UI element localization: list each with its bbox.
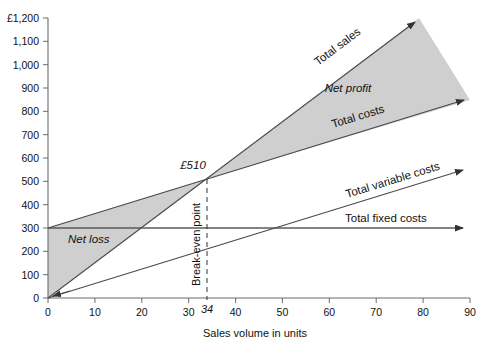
y-axis: £1,200 1,100 1,000 900 800 700 600 500 4…	[7, 12, 48, 304]
x-tick-20: 20	[136, 306, 148, 318]
x-tick-50: 50	[277, 306, 289, 318]
breakeven-chart: £1,200 1,100 1,000 900 800 700 600 500 4…	[0, 0, 483, 344]
label-net-loss: Net loss	[68, 233, 110, 245]
label-total-fixed-costs: Total fixed costs	[345, 212, 427, 224]
x-tick-30: 30	[183, 306, 195, 318]
x-tick-0: 0	[45, 306, 51, 318]
y-tick-700: 700	[21, 129, 39, 141]
y-tick-600: 600	[21, 152, 39, 164]
y-tick-200: 200	[21, 245, 39, 257]
x-tick-60: 60	[323, 306, 335, 318]
y-tick-400: 400	[21, 199, 39, 211]
y-tick-100: 100	[21, 269, 39, 281]
x-tick-90: 90	[464, 306, 476, 318]
x-axis: 0 10 20 30 40 50 60 70 80 90 34 Sales vo…	[45, 298, 476, 339]
y-tick-0: 0	[33, 292, 39, 304]
breakeven-value-label: £510	[179, 159, 206, 171]
label-total-variable-costs: Total variable costs	[344, 160, 441, 200]
y-tick-300: 300	[21, 222, 39, 234]
x-tick-40: 40	[230, 306, 242, 318]
x-axis-title: Sales volume in units	[203, 327, 307, 339]
series-total-costs	[48, 100, 464, 228]
y-tick-800: 800	[21, 105, 39, 117]
chart-canvas: £1,200 1,100 1,000 900 800 700 600 500 4…	[0, 0, 483, 344]
y-tick-1000: 1,000	[13, 59, 39, 71]
y-tick-1200: £1,200	[7, 12, 39, 24]
series-total-sales	[48, 22, 415, 298]
label-net-profit: Net profit	[325, 82, 372, 94]
x-tick-breakeven: 34	[201, 303, 213, 315]
y-tick-900: 900	[21, 82, 39, 94]
x-tick-80: 80	[417, 306, 429, 318]
x-tick-70: 70	[370, 306, 382, 318]
breakeven-caption: Break-even point	[190, 203, 202, 286]
y-tick-1100: 1,100	[13, 35, 39, 47]
label-total-sales: Total sales	[312, 25, 363, 67]
x-tick-10: 10	[89, 306, 101, 318]
y-tick-500: 500	[21, 175, 39, 187]
